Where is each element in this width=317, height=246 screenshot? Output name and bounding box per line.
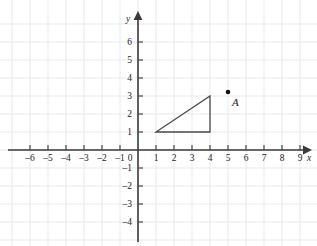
- point-marker: [226, 90, 231, 95]
- x-tick-label: –2: [96, 153, 107, 163]
- coordinate-plane-figure: –6–5–4–3–2–1123456789654321–1–2–3–4 0 x …: [0, 0, 317, 246]
- x-tick-label: 2: [172, 153, 177, 163]
- y-tick-label: 4: [127, 73, 132, 83]
- x-tick-label: 3: [190, 153, 195, 163]
- y-tick-label: –4: [122, 217, 133, 227]
- x-tick-label: 1: [154, 153, 159, 163]
- origin-label: 0: [128, 153, 133, 163]
- x-tick-label: 8: [280, 153, 285, 163]
- x-tick-label: –6: [24, 153, 35, 163]
- x-tick-label: –5: [42, 153, 53, 163]
- x-tick-label: 5: [226, 153, 231, 163]
- y-tick-label: –1: [122, 163, 133, 173]
- y-tick-label: 6: [127, 37, 132, 47]
- y-tick-label: –2: [122, 181, 133, 191]
- y-tick-label: 5: [127, 55, 132, 65]
- x-tick-label: 6: [244, 153, 249, 163]
- x-axis-label: x: [306, 153, 312, 163]
- x-tick-label: –1: [114, 153, 125, 163]
- x-tick-label: 9: [298, 153, 303, 163]
- y-tick-label: –3: [122, 199, 133, 209]
- grid-lines: [0, 0, 317, 246]
- y-tick-label: 3: [127, 91, 132, 101]
- x-tick-label: –4: [60, 153, 71, 163]
- y-axis-label: y: [125, 14, 131, 24]
- point-label: A: [231, 96, 239, 108]
- axes-group: [8, 11, 312, 242]
- x-tick-label: –3: [78, 153, 89, 163]
- y-axis-arrowhead: [134, 11, 143, 20]
- x-tick-label: 7: [262, 153, 267, 163]
- y-tick-label: 1: [127, 127, 132, 137]
- x-tick-label: 4: [208, 153, 213, 163]
- y-tick-label: 2: [127, 109, 132, 119]
- graph-canvas: –6–5–4–3–2–1123456789654321–1–2–3–4 0 x …: [0, 0, 317, 246]
